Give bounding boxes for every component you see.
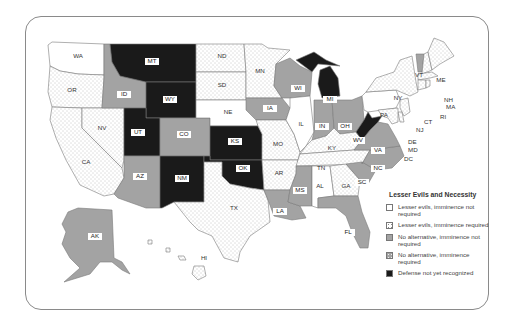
state-label-ME: ME [436, 76, 445, 83]
state-label-IA: IA [267, 104, 274, 111]
state-label-NJ: NJ [416, 126, 424, 133]
state-label-WY: WY [165, 95, 175, 102]
state-label-PA: PA [380, 111, 389, 118]
legend-item-lesser-evils-no-imminence: Lesser evils, imminence not required [386, 203, 490, 217]
state-label-LA: LA [276, 207, 284, 214]
state-label-WV: WV [353, 136, 364, 143]
state-label-CO: CO [179, 130, 188, 137]
state-label-TX: TX [230, 204, 238, 211]
state-label-SC: SC [358, 178, 367, 185]
state-label-NY: NY [394, 94, 403, 101]
legend-label: No alternative, imminence not required [398, 233, 490, 247]
legend-swatch [386, 252, 393, 259]
state-label-VT: VT [415, 71, 423, 78]
state-label-VA: VA [374, 146, 383, 153]
state-label-MN: MN [255, 67, 265, 74]
legend-label: No alternative, imminence required [398, 251, 490, 265]
state-label-AL: AL [316, 182, 324, 189]
legend-item-no-alternative-imminence: No alternative, imminence required [386, 251, 490, 265]
state-label-SD: SD [218, 81, 227, 88]
legend-item-lesser-evils-imminence: Lesser evils, imminence required [386, 221, 490, 229]
state-ME[interactable] [428, 38, 454, 70]
state-label-NC: NC [374, 164, 383, 171]
legend-item-not-recognized: Defense not yet recognized [386, 269, 490, 277]
legend: Lesser Evils and Necessity Lesser evils,… [386, 191, 490, 281]
legend-label: Defense not yet recognized [398, 269, 473, 276]
state-label-NH: NH [444, 96, 453, 103]
state-label-OR: OR [67, 86, 77, 93]
state-label-FL: FL [344, 228, 352, 235]
state-label-TN: TN [317, 164, 325, 171]
state-label-IN: IN [319, 122, 325, 129]
state-label-IL: IL [298, 120, 304, 127]
state-label-MS: MS [295, 186, 304, 193]
state-label-NM: NM [177, 174, 187, 181]
state-CT[interactable] [418, 80, 426, 90]
state-label-AR: AR [275, 169, 284, 176]
state-label-MT: MT [148, 57, 157, 64]
state-AK[interactable] [62, 208, 130, 282]
state-NY[interactable] [366, 56, 418, 96]
state-label-UT: UT [134, 128, 142, 135]
state-label-MO: MO [273, 140, 283, 147]
state-label-AZ: AZ [136, 172, 144, 179]
state-label-RI: RI [440, 113, 446, 120]
state-label-KY: KY [328, 144, 336, 151]
legend-swatch [386, 222, 393, 229]
legend-swatch [386, 234, 393, 241]
state-RI[interactable] [426, 80, 430, 88]
legend-label: Lesser evils, imminence required [398, 221, 488, 228]
state-label-ID: ID [121, 90, 128, 97]
state-label-MD: MD [408, 146, 418, 153]
state-label-MA: MA [446, 103, 456, 110]
state-label-GA: GA [342, 182, 352, 189]
state-label-DC: DC [404, 155, 413, 162]
state-label-WI: WI [294, 84, 302, 91]
state-label-NV: NV [98, 124, 107, 131]
legend-item-no-alternative-no-imminence: No alternative, imminence not required [386, 233, 490, 247]
state-label-CA: CA [82, 158, 91, 165]
state-label-DE: DE [408, 138, 417, 145]
legend-title: Lesser Evils and Necessity [386, 191, 490, 198]
state-FL[interactable] [318, 196, 370, 248]
state-label-CT: CT [424, 118, 432, 125]
state-label-OH: OH [340, 122, 349, 129]
state-label-NE: NE [224, 108, 233, 115]
state-label-WA: WA [73, 52, 84, 59]
state-HI[interactable] [148, 240, 206, 280]
legend-swatch [386, 204, 393, 211]
legend-label: Lesser evils, imminence not required [398, 203, 490, 217]
state-label-ND: ND [218, 52, 227, 59]
state-label-HI: HI [201, 254, 207, 261]
state-label-KS: KS [231, 137, 239, 144]
state-label-OK: OK [239, 164, 249, 171]
state-label-AK: AK [91, 232, 100, 239]
legend-swatch [386, 270, 393, 277]
state-label-MI: MI [327, 95, 334, 102]
